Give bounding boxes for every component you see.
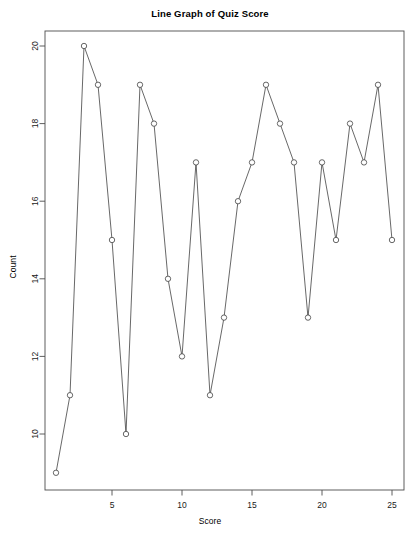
- x-axis-ticks: 510152025: [110, 490, 397, 510]
- data-point: [137, 82, 142, 87]
- data-point: [375, 82, 380, 87]
- data-point: [263, 82, 268, 87]
- x-tick-label: 15: [247, 500, 257, 510]
- data-point: [67, 393, 72, 398]
- plot-frame: [45, 31, 404, 490]
- data-point: [165, 276, 170, 281]
- y-tick-label: 14: [30, 274, 40, 284]
- data-point: [221, 315, 226, 320]
- x-tick-label: 20: [317, 500, 327, 510]
- data-point: [193, 160, 198, 165]
- y-tick-label: 20: [30, 41, 40, 51]
- data-point: [81, 43, 86, 48]
- y-axis-ticks: 101214161820: [30, 41, 45, 439]
- x-axis-title: Score: [0, 516, 420, 526]
- line-chart: Line Graph of Quiz Score 101214161820510…: [0, 0, 420, 539]
- x-tick-label: 5: [110, 500, 115, 510]
- data-point: [319, 160, 324, 165]
- data-line: [56, 46, 392, 473]
- data-point: [123, 431, 128, 436]
- data-markers: [53, 43, 394, 475]
- y-tick-label: 18: [30, 119, 40, 129]
- data-point: [179, 354, 184, 359]
- y-tick-label: 12: [30, 351, 40, 361]
- plot-area: 101214161820510152025: [0, 0, 420, 539]
- data-point: [249, 160, 254, 165]
- y-tick-label: 16: [30, 196, 40, 206]
- data-point: [389, 237, 394, 242]
- data-point: [291, 160, 296, 165]
- data-point: [347, 121, 352, 126]
- data-point: [53, 470, 58, 475]
- data-point: [151, 121, 156, 126]
- data-point: [109, 237, 114, 242]
- data-point: [207, 393, 212, 398]
- x-tick-label: 10: [177, 500, 187, 510]
- y-tick-label: 10: [30, 429, 40, 439]
- data-point: [235, 199, 240, 204]
- x-tick-label: 25: [387, 500, 397, 510]
- data-point: [95, 82, 100, 87]
- data-point: [333, 237, 338, 242]
- data-point: [305, 315, 310, 320]
- data-point: [277, 121, 282, 126]
- y-axis-title: Count: [8, 237, 18, 297]
- data-point: [361, 160, 366, 165]
